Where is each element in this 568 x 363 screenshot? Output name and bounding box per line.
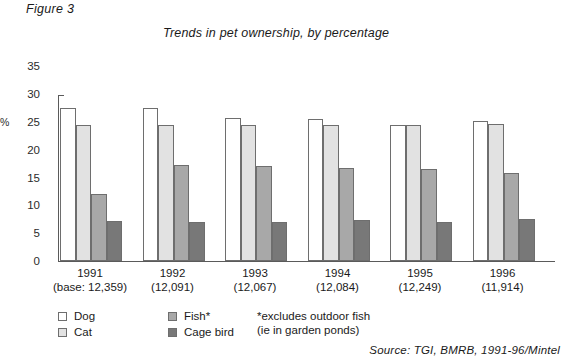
y-axis-title: % (0, 116, 9, 128)
x-axis-group-label: 1994(12,084) (293, 266, 383, 294)
legend-swatch-icon (58, 328, 67, 337)
bar (323, 125, 339, 261)
x-axis-base-count: (12,249) (375, 280, 465, 294)
bar (406, 125, 422, 261)
legend-item[interactable]: Cat (58, 325, 92, 339)
x-axis-year: 1993 (210, 266, 300, 280)
bar (504, 173, 520, 261)
y-axis-tick: 30 (27, 88, 40, 100)
y-axis-tick: 20 (27, 144, 40, 156)
x-axis-base-count: (12,091) (128, 280, 218, 294)
bar (339, 168, 355, 261)
bar (241, 125, 257, 261)
x-axis-group-label: 1992(12,091) (128, 266, 218, 294)
x-axis-year: 1996 (458, 266, 548, 280)
y-axis-tick: 15 (27, 172, 40, 184)
legend-swatch-icon (168, 328, 177, 337)
x-axis-group-label: 1993(12,067) (210, 266, 300, 294)
figure-label: Figure 3 (26, 2, 74, 16)
legend-swatch-icon (168, 312, 177, 321)
footnote-line-1: *excludes outdoor fish (257, 309, 370, 323)
x-axis-year: 1992 (128, 266, 218, 280)
x-axis-group-label: 1996(11,914) (458, 266, 548, 294)
x-axis-base-count: (12,084) (293, 280, 383, 294)
bar (143, 108, 159, 261)
legend-swatch-icon (58, 312, 67, 321)
footnote-line-2: (ie in garden ponds) (257, 323, 370, 337)
bar-group (225, 52, 287, 261)
y-axis-tick: 0 (34, 255, 40, 267)
y-axis-tick: 35 (27, 60, 40, 72)
bar (354, 220, 370, 261)
legend-label: Fish* (184, 309, 210, 323)
legend-label: Cage bird (184, 325, 234, 339)
bar (488, 124, 504, 261)
bar (225, 118, 241, 261)
source-line: Source: TGI, BMRB, 1991-96/Mintel (369, 344, 560, 356)
bar (158, 125, 174, 261)
plot-area: 35302520151050 % (58, 52, 558, 262)
x-axis-line (58, 261, 555, 262)
legend-item[interactable]: Fish* (168, 309, 210, 323)
bar (308, 119, 324, 261)
bar (272, 222, 288, 261)
bar-group (308, 52, 370, 261)
x-axis-year: 1995 (375, 266, 465, 280)
x-axis-group-label: 1995(12,249) (375, 266, 465, 294)
legend-label: Dog (74, 309, 95, 323)
legend-item[interactable]: Dog (58, 309, 95, 323)
bar-group (143, 52, 205, 261)
chart-title: Trends in pet ownership, by percentage (163, 26, 389, 40)
bar (76, 125, 92, 261)
y-axis-tick: 10 (27, 199, 40, 211)
bar (519, 219, 535, 261)
footnote: *excludes outdoor fish (ie in garden pon… (257, 309, 370, 337)
bar (437, 222, 453, 261)
x-axis-year: 1994 (293, 266, 383, 280)
bar (473, 121, 489, 261)
x-axis-labels: 1991(base: 12,359)1992(12,091)1993(12,06… (58, 266, 558, 298)
bar (91, 194, 107, 261)
y-axis-tick: 25 (27, 116, 40, 128)
y-axis-tick-labels: 35302520151050 (0, 52, 50, 262)
y-axis-tick: 5 (34, 227, 40, 239)
bar-group (473, 52, 535, 261)
bar (107, 221, 123, 261)
x-axis-base-count: (12,067) (210, 280, 300, 294)
x-axis-base-count: (base: 12,359) (45, 280, 135, 294)
legend-label: Cat (74, 325, 92, 339)
legend-item[interactable]: Cage bird (168, 325, 234, 339)
x-axis-base-count: (11,914) (458, 280, 548, 294)
x-axis-group-label: 1991(base: 12,359) (45, 266, 135, 294)
bar (256, 166, 272, 261)
bar-group (60, 52, 122, 261)
bar (390, 125, 406, 261)
bar (189, 222, 205, 261)
bar (174, 165, 190, 261)
bars-layer (59, 52, 558, 261)
bar (60, 108, 76, 261)
x-axis-year: 1991 (45, 266, 135, 280)
bar (421, 169, 437, 261)
bar-group (390, 52, 452, 261)
